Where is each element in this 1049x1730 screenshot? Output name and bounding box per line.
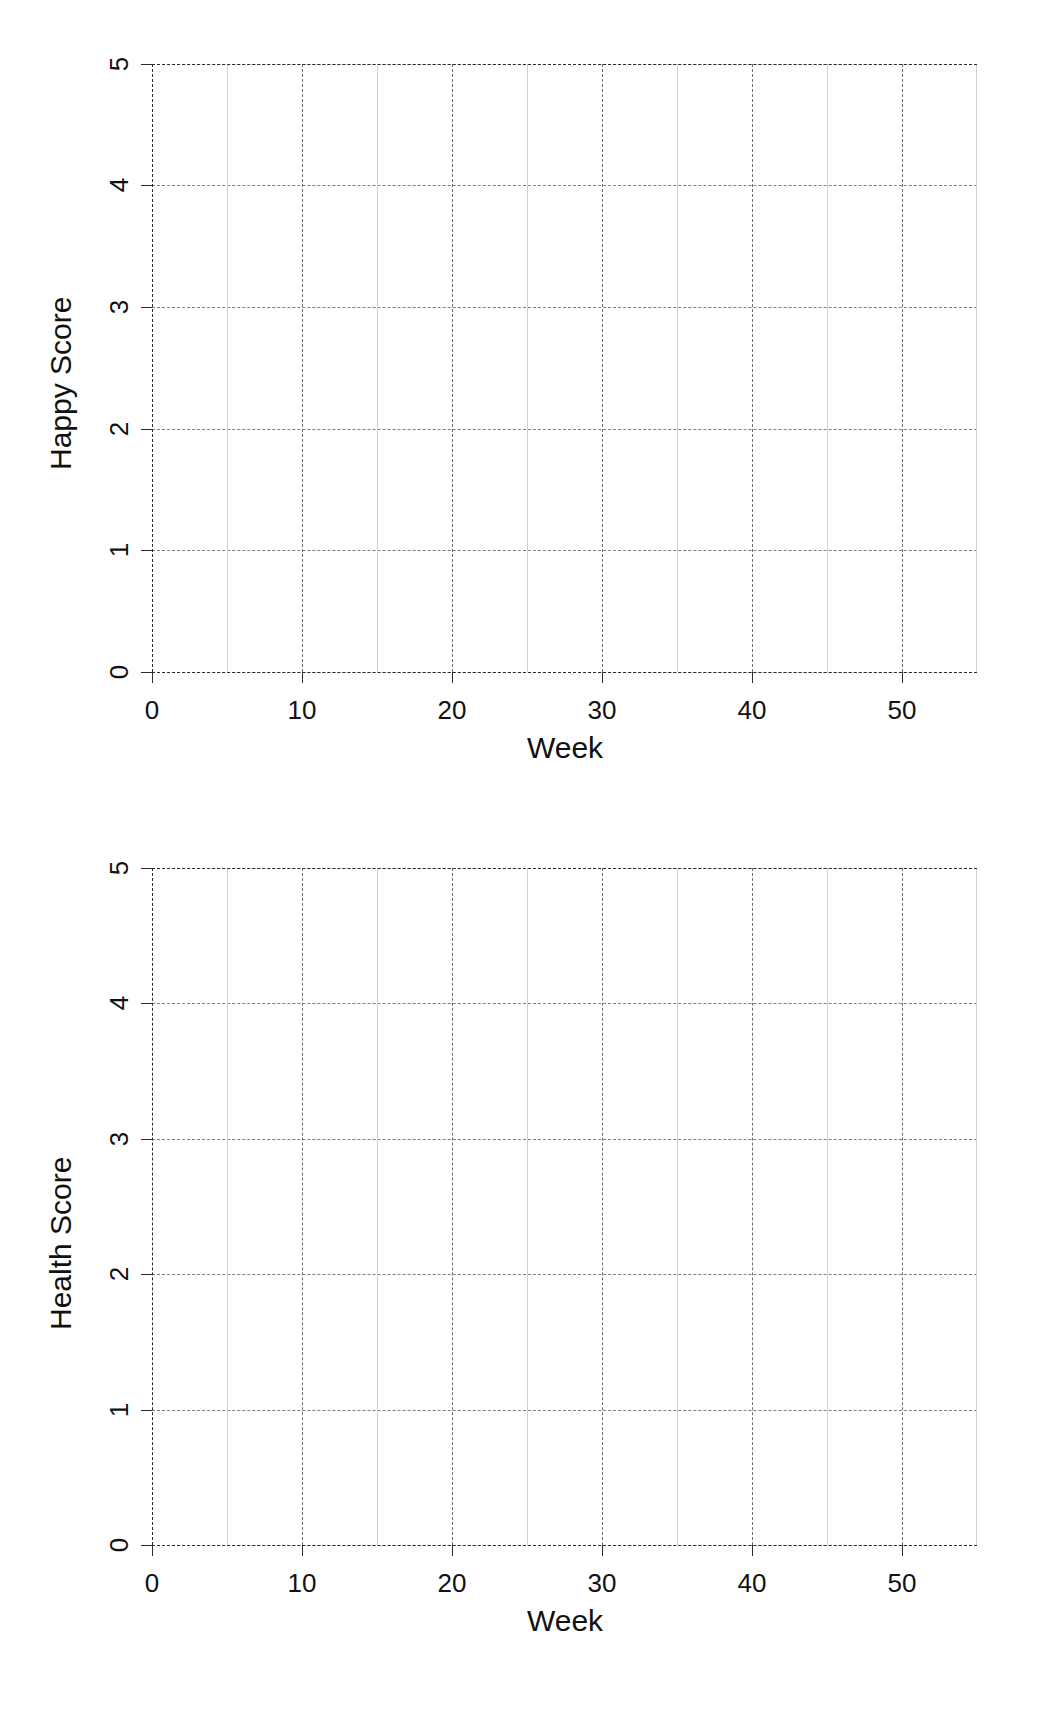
- ytick-label-3: 3: [106, 287, 132, 327]
- gridline-vertical-week5: [227, 64, 228, 672]
- xtick-label-10: 10: [272, 1570, 332, 1596]
- x-axis-title-week: Week: [465, 733, 665, 763]
- gridline-vertical-week20: [452, 868, 453, 1545]
- ytick-mark-3: [141, 1139, 152, 1140]
- ytick-mark-1: [141, 1410, 152, 1411]
- gridline-vertical-week20: [452, 64, 453, 672]
- gridline-vertical-week15: [377, 868, 378, 1545]
- plot-area-happy-score: [152, 64, 977, 672]
- axis-spine-top: [152, 64, 977, 65]
- xtick-mark-0: [152, 1545, 153, 1556]
- gridline-vertical-week30: [602, 64, 603, 672]
- ytick-mark-0: [141, 1545, 152, 1546]
- xtick-label-30: 30: [572, 697, 632, 723]
- gridline-horizontal-y1: [152, 1410, 977, 1411]
- gridline-vertical-week10: [302, 868, 303, 1545]
- xtick-label-40: 40: [722, 697, 782, 723]
- ytick-mark-2: [141, 1274, 152, 1275]
- gridline-horizontal-y4: [152, 185, 977, 186]
- ytick-mark-3: [141, 307, 152, 308]
- xtick-mark-10: [302, 1545, 303, 1556]
- gridline-horizontal-y4: [152, 1003, 977, 1004]
- ytick-label-4: 4: [106, 983, 132, 1023]
- ytick-label-3: 3: [106, 1119, 132, 1159]
- xtick-mark-10: [302, 672, 303, 683]
- ytick-mark-2: [141, 429, 152, 430]
- x-axis-title-week: Week: [465, 1606, 665, 1636]
- ytick-label-0: 0: [106, 1525, 132, 1565]
- ytick-mark-4: [141, 185, 152, 186]
- gridline-horizontal-y3: [152, 307, 977, 308]
- chart-panel-happy-score: 5 4 3 2 1 0 0 10 20 30 40 50 Happy Score…: [0, 0, 1049, 845]
- xtick-mark-50: [902, 672, 903, 683]
- axis-spine-bottom: [152, 1545, 977, 1546]
- xtick-label-30: 30: [572, 1570, 632, 1596]
- xtick-mark-40: [752, 1545, 753, 1556]
- gridline-vertical-week25: [527, 64, 528, 672]
- gridline-horizontal-y2: [152, 429, 977, 430]
- gridline-vertical-week5: [227, 868, 228, 1545]
- xtick-mark-0: [152, 672, 153, 683]
- axis-spine-left: [152, 64, 153, 682]
- axis-spine-bottom: [152, 672, 977, 673]
- gridline-vertical-week15: [377, 64, 378, 672]
- gridline-vertical-week40: [752, 64, 753, 672]
- ytick-label-4: 4: [106, 165, 132, 205]
- chart-panel-health-score: 5 4 3 2 1 0 0 10 20 30 40 50 Health Scor…: [0, 800, 1049, 1730]
- xtick-label-40: 40: [722, 1570, 782, 1596]
- ytick-label-1: 1: [106, 1390, 132, 1430]
- ytick-label-0: 0: [106, 652, 132, 692]
- xtick-label-0: 0: [122, 697, 182, 723]
- gridline-horizontal-y2: [152, 1274, 977, 1275]
- xtick-label-50: 50: [872, 697, 932, 723]
- figure-root: 5 4 3 2 1 0 0 10 20 30 40 50 Happy Score…: [0, 0, 1049, 1730]
- plot-area-health-score: [152, 868, 977, 1545]
- ytick-mark-0: [141, 672, 152, 673]
- axis-spine-left: [152, 868, 153, 1555]
- xtick-mark-50: [902, 1545, 903, 1556]
- gridline-vertical-week40: [752, 868, 753, 1545]
- xtick-label-0: 0: [122, 1570, 182, 1596]
- ytick-mark-5: [141, 64, 152, 65]
- xtick-label-20: 20: [422, 1570, 482, 1596]
- ytick-label-2: 2: [106, 409, 132, 449]
- gridline-vertical-week50: [902, 868, 903, 1545]
- ytick-label-2: 2: [106, 1254, 132, 1294]
- xtick-mark-20: [452, 1545, 453, 1556]
- gridline-vertical-week45: [827, 868, 828, 1545]
- xtick-mark-30: [602, 1545, 603, 1556]
- gridline-vertical-week25: [527, 868, 528, 1545]
- gridline-vertical-week10: [302, 64, 303, 672]
- xtick-mark-30: [602, 672, 603, 683]
- gridline-vertical-week55: [976, 64, 977, 672]
- ytick-mark-1: [141, 550, 152, 551]
- axis-spine-top: [152, 868, 977, 869]
- y-axis-title-health-score: Health Score: [46, 1157, 76, 1330]
- ytick-mark-4: [141, 1003, 152, 1004]
- y-axis-title-happy-score: Happy Score: [46, 297, 76, 470]
- xtick-mark-20: [452, 672, 453, 683]
- xtick-label-10: 10: [272, 697, 332, 723]
- ytick-mark-5: [141, 868, 152, 869]
- gridline-vertical-week55: [976, 868, 977, 1545]
- xtick-label-50: 50: [872, 1570, 932, 1596]
- gridline-vertical-week35: [677, 64, 678, 672]
- gridline-vertical-week50: [902, 64, 903, 672]
- ytick-label-1: 1: [106, 530, 132, 570]
- gridline-vertical-week45: [827, 64, 828, 672]
- gridline-horizontal-y1: [152, 550, 977, 551]
- xtick-label-20: 20: [422, 697, 482, 723]
- ytick-label-5: 5: [106, 44, 132, 84]
- gridline-vertical-week35: [677, 868, 678, 1545]
- gridline-horizontal-y3: [152, 1139, 977, 1140]
- ytick-label-5: 5: [106, 848, 132, 888]
- xtick-mark-40: [752, 672, 753, 683]
- gridline-vertical-week30: [602, 868, 603, 1545]
